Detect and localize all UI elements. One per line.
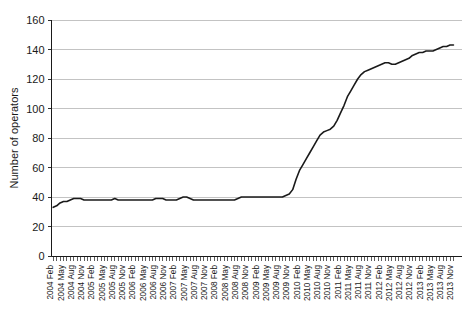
y-axis-tick-label: 160 xyxy=(26,14,44,26)
y-axis-tick-label: 140 xyxy=(26,44,44,56)
y-axis-tick-label: 100 xyxy=(26,103,44,115)
x-axis-tick-label: 2004 May xyxy=(57,264,66,301)
x-axis-tick-label: 2008 May xyxy=(221,264,230,301)
x-axis-tick-label: 2006 Aug xyxy=(149,265,158,300)
chart-container: 020406080100120140160 Number of operator… xyxy=(0,0,470,328)
x-axis-tick-label: 2012 Aug xyxy=(395,265,404,300)
x-axis-tick-label: 2008 Aug xyxy=(231,265,240,300)
x-axis-tick-label: 2006 May xyxy=(139,264,148,301)
x-axis-tick-label: 2009 Nov xyxy=(282,264,291,300)
x-axis-tick-label: 2005 Nov xyxy=(118,264,127,300)
x-axis-tick-label: 2011 Aug xyxy=(354,265,363,299)
x-axis-tick-label: 2004 Nov xyxy=(77,264,86,300)
x-axis-tick-label: 2010 Feb xyxy=(293,265,302,300)
y-axis-title: Number of operators xyxy=(8,87,20,188)
x-axis-tick-label: 2013 Aug xyxy=(436,265,445,300)
x-axis-tick-label: 2010 May xyxy=(303,264,312,301)
y-axis-tick-label: 60 xyxy=(32,162,44,174)
x-axis-tick-label: 2009 May xyxy=(262,264,271,301)
x-axis-tick-label: 2005 Aug xyxy=(108,265,117,300)
x-axis-tick-label: 2009 Feb xyxy=(252,265,261,300)
x-axis-tick-label: 2013 Feb xyxy=(416,265,425,300)
x-axis-tick-label: 2009 Aug xyxy=(272,265,281,300)
x-axis-tick-label: 2013 May xyxy=(426,264,435,301)
x-axis-tick-label: 2011 Nov xyxy=(364,264,373,299)
y-axis-tick-label: 120 xyxy=(26,73,44,85)
y-axis-tick-label: 80 xyxy=(32,132,44,144)
x-axis-tick-label: 2004 Feb xyxy=(46,265,55,300)
x-axis-tick-label: 2008 Feb xyxy=(210,265,219,300)
y-axis-tick-label: 20 xyxy=(32,221,44,233)
x-axis-tick-label: 2013 Nov xyxy=(446,264,455,300)
x-axis-tick-label: 2011 Feb xyxy=(334,265,343,299)
x-axis-tick-label: 2012 Feb xyxy=(375,265,384,300)
x-axis-tick-label: 2005 May xyxy=(98,264,107,301)
line-chart: 020406080100120140160 Number of operator… xyxy=(0,0,470,328)
x-axis-tick-label: 2007 Nov xyxy=(200,264,209,300)
x-axis-tick-label: 2007 May xyxy=(180,264,189,301)
x-axis-tick-label: 2012 Nov xyxy=(405,264,414,300)
x-axis-tick-label: 2011 May xyxy=(344,264,353,300)
x-axis-tick-label: 2010 Aug xyxy=(313,265,322,300)
x-axis-tick-label: 2008 Nov xyxy=(241,264,250,300)
y-axis-tick-label: 40 xyxy=(32,191,44,203)
y-axis-tick-label: 0 xyxy=(38,250,44,262)
x-axis-tick-label: 2004 Aug xyxy=(67,265,76,300)
x-axis-tick-label: 2006 Feb xyxy=(128,265,137,300)
x-axis-tick-label: 2010 Nov xyxy=(323,264,332,300)
x-axis-tick-label: 2012 May xyxy=(385,264,394,301)
x-axis-tick-label: 2005 Feb xyxy=(87,265,96,300)
x-axis-tick-label: 2006 Nov xyxy=(159,264,168,300)
x-axis-tick-label: 2007 Aug xyxy=(190,265,199,300)
x-axis-tick-label: 2007 Feb xyxy=(169,265,178,300)
